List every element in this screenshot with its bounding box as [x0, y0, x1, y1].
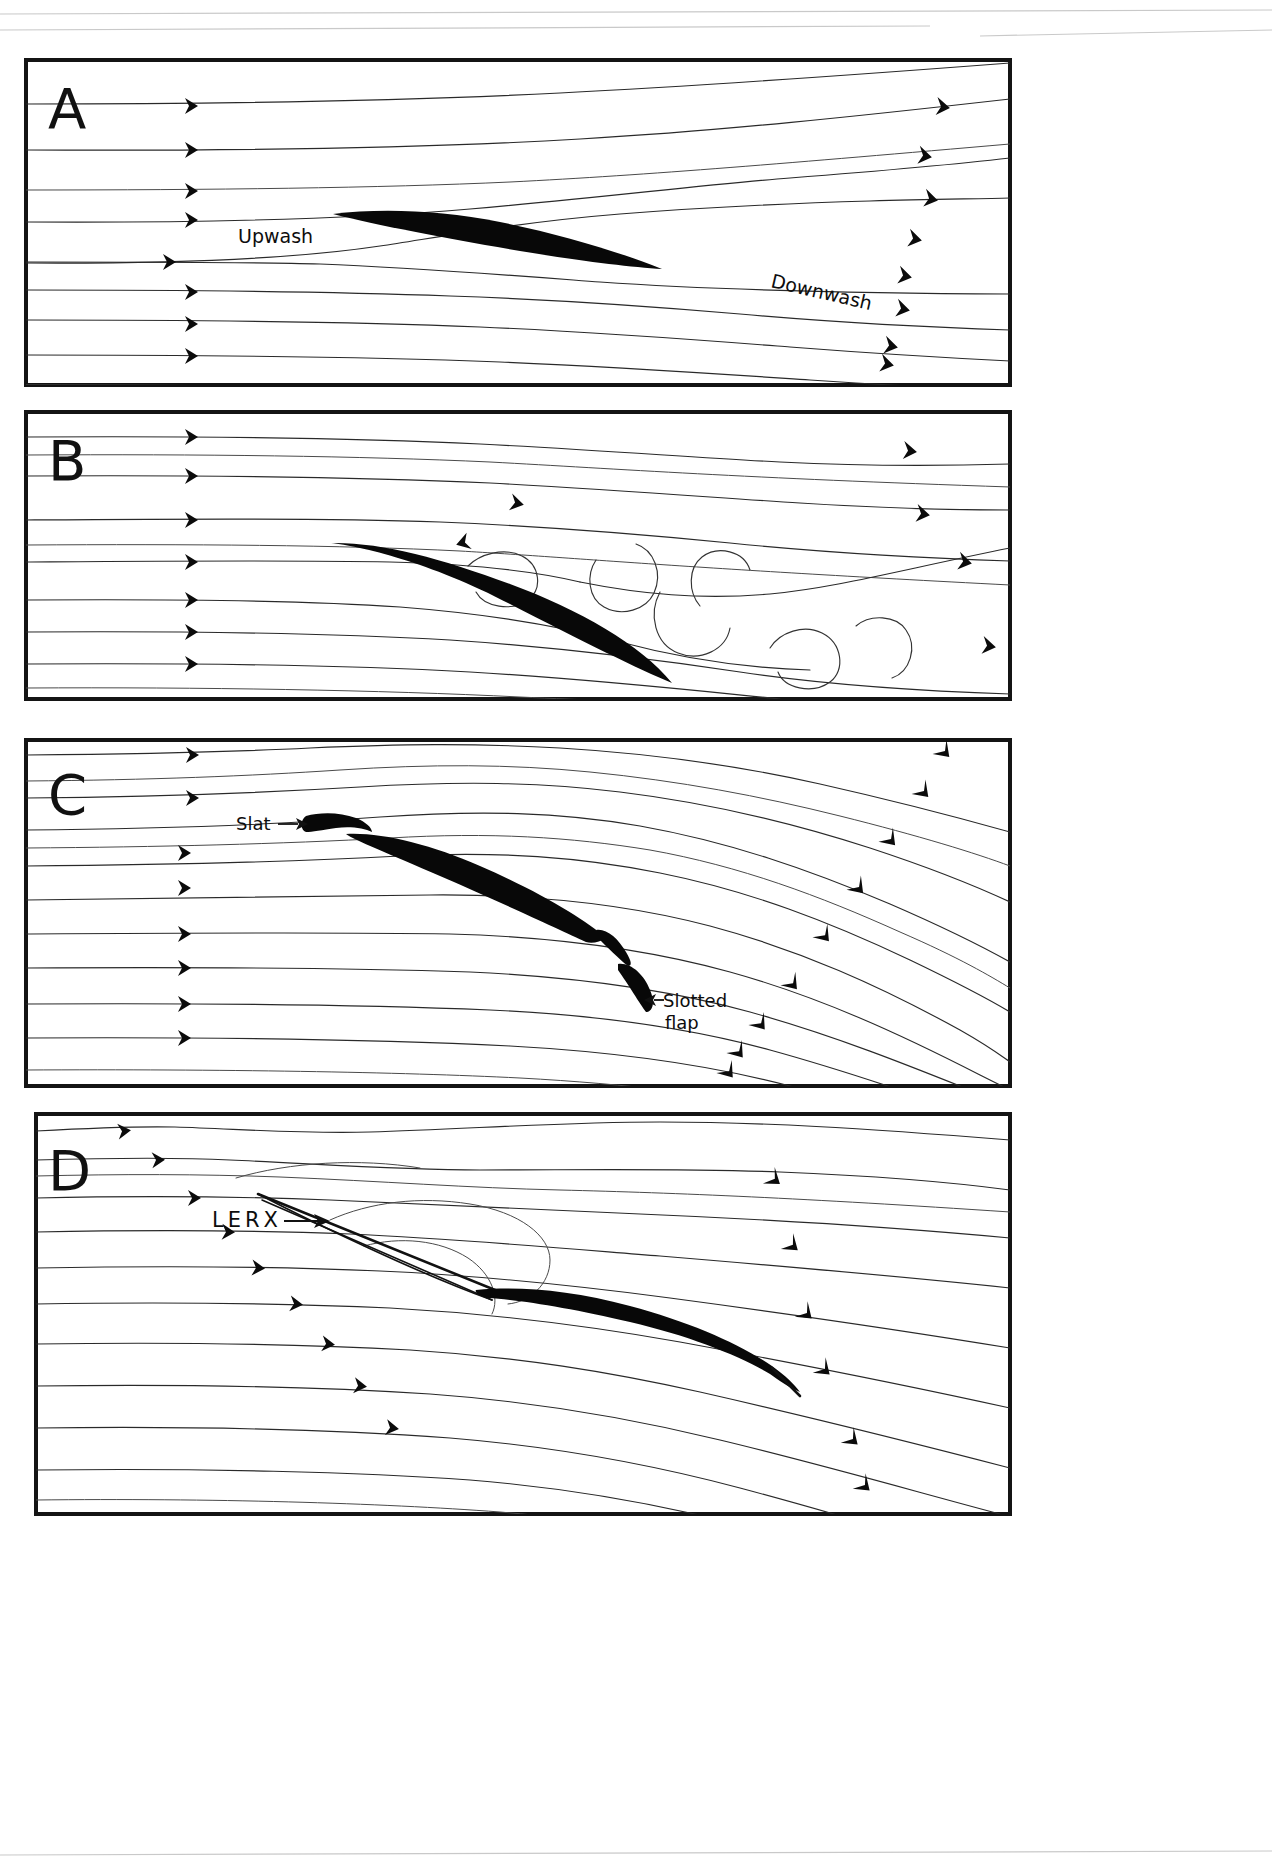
panel-letter-a: A [48, 76, 87, 141]
panel-letter-d: D [48, 1138, 92, 1203]
panel-letter-b: B [48, 428, 87, 493]
slotted-flap-label-line2: flap [665, 1012, 699, 1033]
slat-label: Slat [236, 813, 271, 834]
paper-background [0, 0, 1272, 1869]
upwash-label: Upwash [238, 225, 313, 247]
slotted-flap-label-line1: Slotted [663, 990, 727, 1011]
airfoil-flow-figure: A Upwash Downwash [0, 0, 1272, 1869]
figure-canvas: A Upwash Downwash [0, 0, 1272, 1869]
panel-letter-c: C [48, 762, 88, 827]
lerx-label: LERX [212, 1208, 282, 1232]
